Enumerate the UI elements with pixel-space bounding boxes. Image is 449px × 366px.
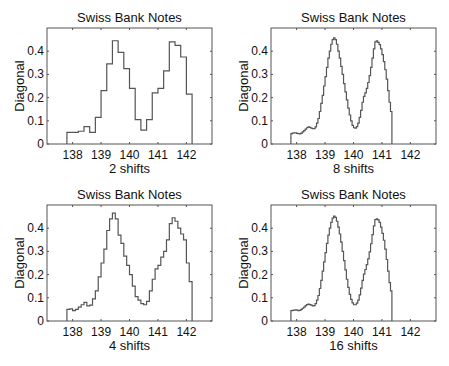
y-tick-label: 0.1: [251, 291, 268, 305]
x-tick-label: 139: [315, 148, 335, 162]
y-tick-label: 0.3: [251, 244, 268, 258]
x-tick-label: 141: [372, 325, 392, 339]
density-curve: [291, 38, 392, 144]
chart-title: Swiss Bank Notes: [301, 10, 406, 25]
y-tick-label: 0: [261, 137, 268, 151]
density-curve: [67, 41, 192, 144]
density-curve: [291, 216, 392, 321]
y-tick-label: 0: [261, 314, 268, 328]
x-tick-label: 141: [148, 148, 168, 162]
chart-title: Swiss Bank Notes: [77, 10, 182, 25]
y-tick-label: 0: [37, 314, 44, 328]
y-tick-label: 0.4: [27, 44, 44, 58]
chart-svg: Swiss Bank Notes16 shiftsDiagonal1381391…: [224, 177, 448, 360]
y-tick-label: 0.3: [27, 244, 44, 258]
y-axis-label: Diagonal: [12, 237, 27, 288]
x-tick-label: 140: [119, 325, 139, 339]
y-tick-label: 0.3: [27, 67, 44, 81]
chart-panel-16-shifts: Swiss Bank Notes16 shiftsDiagonal1381391…: [224, 177, 448, 360]
x-axis-label: 8 shifts: [333, 161, 375, 176]
y-tick-label: 0.2: [251, 268, 268, 282]
x-axis-label: 16 shifts: [329, 338, 378, 353]
x-tick-label: 138: [287, 148, 307, 162]
chart-panel-2-shifts: Swiss Bank Notes2 shiftsDiagonal13813914…: [0, 0, 224, 183]
x-tick-label: 139: [91, 148, 111, 162]
y-tick-label: 0.1: [27, 291, 44, 305]
y-tick-label: 0.2: [27, 268, 44, 282]
x-tick-label: 142: [176, 148, 196, 162]
x-tick-label: 138: [287, 325, 307, 339]
y-tick-label: 0.4: [27, 221, 44, 235]
y-axis-label: Diagonal: [236, 237, 251, 288]
x-tick-label: 142: [400, 148, 420, 162]
chart-svg: Swiss Bank Notes2 shiftsDiagonal13813914…: [0, 0, 224, 183]
chart-panel-8-shifts: Swiss Bank Notes8 shiftsDiagonal13813914…: [224, 0, 448, 183]
y-tick-label: 0.4: [251, 44, 268, 58]
chart-title: Swiss Bank Notes: [301, 187, 406, 202]
x-tick-label: 138: [63, 148, 83, 162]
chart-title: Swiss Bank Notes: [77, 187, 182, 202]
y-axis-label: Diagonal: [236, 60, 251, 111]
chart-svg: Swiss Bank Notes4 shiftsDiagonal13813914…: [0, 177, 224, 360]
x-tick-label: 140: [343, 148, 363, 162]
x-tick-label: 139: [91, 325, 111, 339]
x-tick-label: 141: [148, 325, 168, 339]
x-tick-label: 140: [119, 148, 139, 162]
y-tick-label: 0.2: [251, 91, 268, 105]
x-tick-label: 139: [315, 325, 335, 339]
x-axis-label: 4 shifts: [109, 338, 151, 353]
x-tick-label: 141: [372, 148, 392, 162]
y-tick-label: 0.2: [27, 91, 44, 105]
chart-panel-4-shifts: Swiss Bank Notes4 shiftsDiagonal13813914…: [0, 177, 224, 360]
density-curve: [67, 213, 192, 321]
y-tick-label: 0.1: [27, 114, 44, 128]
x-tick-label: 138: [63, 325, 83, 339]
chart-svg: Swiss Bank Notes8 shiftsDiagonal13813914…: [224, 0, 448, 183]
x-axis-label: 2 shifts: [109, 161, 151, 176]
y-tick-label: 0.4: [251, 221, 268, 235]
y-tick-label: 0.3: [251, 67, 268, 81]
x-tick-label: 142: [400, 325, 420, 339]
x-tick-label: 142: [176, 325, 196, 339]
y-tick-label: 0: [37, 137, 44, 151]
x-tick-label: 140: [343, 325, 363, 339]
y-tick-label: 0.1: [251, 114, 268, 128]
y-axis-label: Diagonal: [12, 60, 27, 111]
